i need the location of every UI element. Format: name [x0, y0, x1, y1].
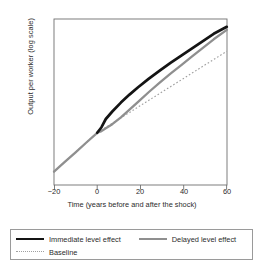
legend: Immediate level effect Delayed level eff…: [10, 229, 253, 260]
x-tick-label-20: 20: [127, 187, 153, 196]
x-tick-label-40: 40: [171, 187, 197, 196]
thick-black-line-icon: [16, 235, 44, 243]
legend-label-delayed: Delayed level effect: [172, 235, 236, 244]
legend-row-bottom: Baseline: [11, 245, 252, 259]
dotted-gray-line-icon: [16, 248, 44, 256]
legend-row-top: Immediate level effect Delayed level eff…: [11, 232, 252, 246]
legend-label-baseline: Baseline: [49, 248, 77, 257]
x-axis-label: Time (years before and after the shock): [0, 200, 264, 209]
legend-item-baseline: Baseline: [16, 248, 77, 257]
y-axis-label-text: Output per worker (log scale): [26, 18, 35, 115]
figure: Output per worker (log scale) −20 0 20 4…: [0, 0, 264, 272]
x-tick-label--20: −20: [41, 187, 67, 196]
legend-item-immediate-level-effect: Immediate level effect: [16, 235, 121, 244]
x-tick-label-60: 60: [214, 187, 240, 196]
gray-line-icon: [139, 235, 167, 243]
legend-item-delayed-level-effect: Delayed level effect: [139, 235, 236, 244]
plot-area: Output per worker (log scale) −20 0 20 4…: [0, 0, 264, 220]
y-axis-label: Output per worker (log scale): [26, 18, 40, 188]
legend-label-immediate: Immediate level effect: [49, 235, 121, 244]
x-tick-label-0: 0: [84, 187, 110, 196]
